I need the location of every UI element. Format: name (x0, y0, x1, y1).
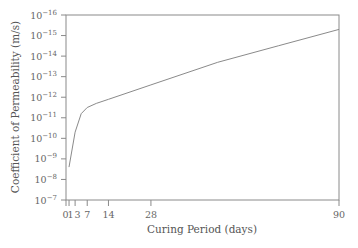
x-axis-ticks: 0137142890 (62, 200, 345, 220)
y-tick-label: 10−14 (30, 50, 57, 62)
x-tick-label: 90 (333, 209, 345, 220)
y-tick-label: 10−13 (30, 70, 57, 82)
permeability-curve (69, 29, 339, 167)
x-tick-label: 3 (75, 209, 81, 220)
y-tick-label: 10−12 (30, 91, 57, 103)
y-axis-title: Coefficient of Permeability (m/s) (9, 21, 21, 193)
y-axis-ticks: 10−710−810−910−1010−1110−1210−1310−1410−… (30, 9, 66, 206)
y-tick-label: 10−10 (30, 132, 57, 144)
y-tick-label: 10−11 (30, 111, 57, 123)
y-tick-label: 10−15 (30, 29, 57, 41)
x-tick-label: 7 (84, 209, 90, 220)
x-tick-label: 14 (102, 209, 114, 220)
permeability-chart: 10−710−810−910−1010−1110−1210−1310−1410−… (0, 0, 358, 248)
x-tick-label: 28 (145, 209, 157, 220)
y-tick-label: 10−9 (35, 152, 57, 164)
plot-frame (66, 15, 339, 200)
y-tick-label: 10−8 (35, 173, 57, 185)
y-tick-label: 10−16 (30, 9, 57, 21)
y-tick-label: 10−7 (35, 194, 57, 206)
x-axis-title: Curing Period (days) (147, 223, 257, 235)
x-tick-label: 1 (68, 209, 74, 220)
